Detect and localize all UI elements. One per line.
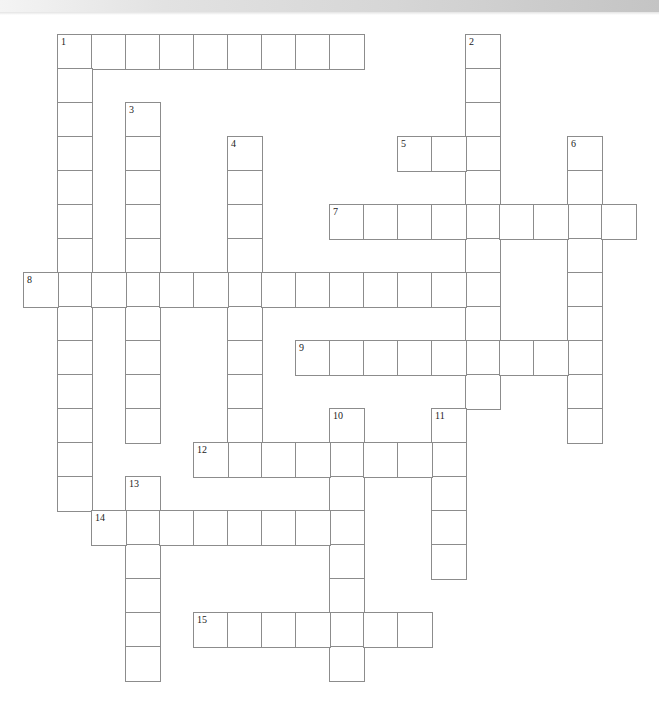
- crossword-cell[interactable]: [57, 102, 93, 138]
- crossword-cell[interactable]: 11: [431, 408, 467, 444]
- crossword-cell[interactable]: [329, 34, 365, 70]
- crossword-cell[interactable]: [329, 612, 365, 648]
- crossword-cell[interactable]: [57, 476, 93, 512]
- crossword-cell[interactable]: [125, 204, 161, 240]
- crossword-cell[interactable]: 12: [193, 442, 229, 478]
- crossword-cell[interactable]: [295, 34, 331, 70]
- crossword-cell[interactable]: [227, 612, 263, 648]
- crossword-cell[interactable]: [57, 68, 93, 104]
- crossword-cell[interactable]: [57, 340, 93, 376]
- crossword-cell[interactable]: [125, 646, 161, 682]
- crossword-cell[interactable]: [567, 340, 603, 376]
- crossword-cell[interactable]: [329, 272, 365, 308]
- crossword-cell[interactable]: [465, 136, 501, 172]
- crossword-cell[interactable]: [261, 510, 297, 546]
- crossword-cell[interactable]: [567, 374, 603, 410]
- crossword-cell[interactable]: [431, 510, 467, 546]
- crossword-cell[interactable]: [57, 408, 93, 444]
- crossword-cell[interactable]: [567, 408, 603, 444]
- crossword-cell[interactable]: [57, 374, 93, 410]
- crossword-cell[interactable]: [329, 340, 365, 376]
- crossword-cell[interactable]: [567, 204, 603, 240]
- crossword-cell[interactable]: [329, 510, 365, 546]
- crossword-cell[interactable]: 15: [193, 612, 229, 648]
- crossword-cell[interactable]: [567, 238, 603, 274]
- crossword-cell[interactable]: [193, 272, 229, 308]
- crossword-cell[interactable]: [125, 578, 161, 614]
- crossword-cell[interactable]: [91, 272, 127, 308]
- crossword-cell[interactable]: [57, 306, 93, 342]
- crossword-cell[interactable]: [295, 612, 331, 648]
- crossword-cell[interactable]: [295, 510, 331, 546]
- crossword-cell[interactable]: 3: [125, 102, 161, 138]
- crossword-cell[interactable]: [431, 136, 467, 172]
- crossword-cell[interactable]: [465, 272, 501, 308]
- crossword-cell[interactable]: 5: [397, 136, 433, 172]
- crossword-cell[interactable]: [431, 442, 467, 478]
- crossword-cell[interactable]: [125, 272, 161, 308]
- crossword-cell[interactable]: [431, 272, 467, 308]
- crossword-cell[interactable]: 4: [227, 136, 263, 172]
- crossword-cell[interactable]: [57, 272, 93, 308]
- crossword-cell[interactable]: [227, 442, 263, 478]
- crossword-cell[interactable]: [261, 272, 297, 308]
- crossword-cell[interactable]: [227, 340, 263, 376]
- crossword-cell[interactable]: [465, 204, 501, 240]
- crossword-cell[interactable]: [465, 238, 501, 274]
- crossword-cell[interactable]: [363, 340, 399, 376]
- crossword-cell[interactable]: [227, 204, 263, 240]
- crossword-cell[interactable]: [91, 34, 127, 70]
- crossword-cell[interactable]: [57, 238, 93, 274]
- crossword-cell[interactable]: 8: [23, 272, 59, 308]
- crossword-cell[interactable]: [125, 544, 161, 580]
- crossword-cell[interactable]: 6: [567, 136, 603, 172]
- crossword-cell[interactable]: [57, 204, 93, 240]
- crossword-cell[interactable]: [329, 544, 365, 580]
- crossword-cell[interactable]: [125, 238, 161, 274]
- crossword-cell[interactable]: [567, 272, 603, 308]
- crossword-cell[interactable]: 10: [329, 408, 365, 444]
- crossword-cell[interactable]: 7: [329, 204, 365, 240]
- crossword-cell[interactable]: [397, 340, 433, 376]
- crossword-cell[interactable]: [227, 170, 263, 206]
- crossword-cell[interactable]: [397, 272, 433, 308]
- crossword-cell[interactable]: [227, 374, 263, 410]
- crossword-cell[interactable]: [193, 34, 229, 70]
- crossword-cell[interactable]: [465, 102, 501, 138]
- crossword-cell[interactable]: [125, 612, 161, 648]
- crossword-cell[interactable]: [499, 204, 535, 240]
- crossword-cell[interactable]: [227, 510, 263, 546]
- crossword-cell[interactable]: [159, 272, 195, 308]
- crossword-cell[interactable]: 13: [125, 476, 161, 512]
- crossword-cell[interactable]: [465, 374, 501, 410]
- crossword-cell[interactable]: [329, 476, 365, 512]
- crossword-cell[interactable]: [125, 510, 161, 546]
- crossword-cell[interactable]: 9: [295, 340, 331, 376]
- crossword-cell[interactable]: [465, 68, 501, 104]
- crossword-cell[interactable]: [261, 34, 297, 70]
- crossword-cell[interactable]: [465, 340, 501, 376]
- crossword-cell[interactable]: 14: [91, 510, 127, 546]
- crossword-cell[interactable]: 1: [57, 34, 93, 70]
- crossword-cell[interactable]: [227, 306, 263, 342]
- crossword-cell[interactable]: [601, 204, 637, 240]
- crossword-cell[interactable]: [431, 476, 467, 512]
- crossword-cell[interactable]: [363, 272, 399, 308]
- crossword-cell[interactable]: [329, 578, 365, 614]
- crossword-cell[interactable]: [261, 612, 297, 648]
- crossword-cell[interactable]: [125, 170, 161, 206]
- crossword-cell[interactable]: [159, 34, 195, 70]
- crossword-cell[interactable]: [125, 136, 161, 172]
- crossword-cell[interactable]: [499, 340, 535, 376]
- crossword-cell[interactable]: [57, 170, 93, 206]
- crossword-cell[interactable]: [431, 204, 467, 240]
- crossword-cell[interactable]: [125, 408, 161, 444]
- crossword-cell[interactable]: [431, 544, 467, 580]
- crossword-cell[interactable]: [193, 510, 229, 546]
- crossword-cell[interactable]: [295, 272, 331, 308]
- crossword-cell[interactable]: [227, 34, 263, 70]
- crossword-cell[interactable]: [295, 442, 331, 478]
- crossword-cell[interactable]: [363, 442, 399, 478]
- crossword-cell[interactable]: [397, 612, 433, 648]
- crossword-cell[interactable]: [465, 170, 501, 206]
